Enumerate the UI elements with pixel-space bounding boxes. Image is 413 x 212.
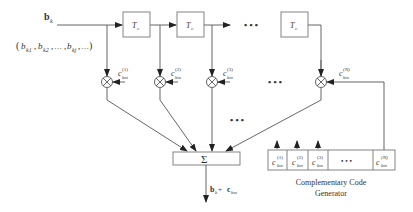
svg-text:(2): (2) bbox=[175, 67, 181, 72]
svg-text:…: … bbox=[54, 42, 62, 51]
svg-text:kj: kj bbox=[72, 47, 77, 53]
svg-text:k: k bbox=[50, 18, 53, 24]
generator-title: Complementary Code bbox=[296, 178, 367, 187]
svg-text:km: km bbox=[343, 75, 349, 80]
svg-text:Σ: Σ bbox=[201, 153, 207, 165]
svg-text:km: km bbox=[227, 75, 233, 80]
multiplier-2: c (2) km bbox=[155, 67, 182, 88]
delay-box-2: T c bbox=[177, 12, 204, 37]
svg-text:(3): (3) bbox=[317, 155, 323, 160]
output: b k + c km bbox=[206, 165, 237, 202]
svg-text:km: km bbox=[231, 190, 237, 195]
input-sequence: ( b k1 , b k2 , … , b kj , … ) bbox=[16, 40, 92, 53]
multiplier-3: c (3) km bbox=[207, 67, 234, 88]
svg-text:c: c bbox=[272, 158, 276, 167]
delay-box-1: T c bbox=[123, 12, 150, 37]
diagram-svg: b k ( b k1 , b k2 , … , b kj , … ) T c T… bbox=[0, 0, 413, 212]
generator-outputs bbox=[277, 141, 318, 149]
svg-text:,: , bbox=[64, 41, 66, 51]
generator-subtitle: Generator bbox=[315, 189, 347, 198]
multiplier-ellipsis: • • • bbox=[268, 77, 282, 87]
svg-text:): ) bbox=[89, 40, 92, 52]
svg-text:k2: k2 bbox=[43, 47, 49, 53]
summer-ellipsis: • • • bbox=[230, 115, 244, 125]
code-generator: c (1) km c (2) km c (3) km • • • c (N) k… bbox=[268, 141, 395, 198]
svg-text:k1: k1 bbox=[26, 47, 32, 53]
svg-text:,: , bbox=[78, 41, 80, 51]
svg-text:(3): (3) bbox=[227, 67, 233, 72]
multiplier-1: c (1) km bbox=[102, 67, 129, 88]
svg-text:(: ( bbox=[16, 40, 20, 52]
svg-text:…: … bbox=[81, 42, 89, 51]
svg-text:km: km bbox=[381, 163, 387, 168]
svg-text:km: km bbox=[317, 163, 323, 168]
svg-text:km: km bbox=[277, 163, 283, 168]
svg-text:(N): (N) bbox=[343, 67, 350, 72]
summer-block: Σ bbox=[173, 152, 240, 165]
svg-text:+: + bbox=[218, 186, 222, 194]
delay-ellipsis: • • • bbox=[244, 20, 258, 30]
svg-text:,: , bbox=[34, 41, 36, 51]
svg-text:km: km bbox=[175, 75, 181, 80]
svg-text:km: km bbox=[122, 75, 128, 80]
multiplier-n: c (N) km bbox=[316, 67, 385, 150]
svg-text:,: , bbox=[51, 41, 53, 51]
summer-inputs bbox=[107, 88, 321, 151]
svg-text:(2): (2) bbox=[297, 155, 303, 160]
svg-text:(N): (N) bbox=[381, 155, 388, 160]
generator-cell-ellipsis: • • • bbox=[341, 157, 352, 165]
svg-text:(1): (1) bbox=[122, 67, 128, 72]
svg-text:km: km bbox=[297, 163, 303, 168]
svg-text:(1): (1) bbox=[277, 155, 283, 160]
delay-box-3: T c bbox=[281, 12, 308, 37]
svg-text:c: c bbox=[312, 158, 316, 167]
block-diagram: b k ( b k1 , b k2 , … , b kj , … ) T c T… bbox=[0, 0, 413, 212]
input-label: b k bbox=[44, 11, 53, 24]
svg-text:c: c bbox=[376, 158, 380, 167]
svg-text:c: c bbox=[292, 158, 296, 167]
